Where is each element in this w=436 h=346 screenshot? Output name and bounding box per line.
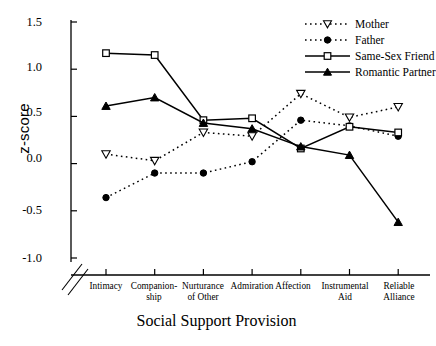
legend-entry-romantic-partner xyxy=(305,68,350,75)
data-point-0-0 xyxy=(102,151,110,158)
data-point-2-5 xyxy=(346,123,353,130)
data-point-2-0 xyxy=(103,50,110,57)
legend-marker-1 xyxy=(324,37,330,43)
data-point-0-5 xyxy=(345,114,353,121)
data-point-0-6 xyxy=(394,104,402,111)
legend-entry-same-sex-friend xyxy=(305,53,350,60)
data-point-1-3 xyxy=(249,159,255,165)
data-point-1-1 xyxy=(152,170,158,176)
legend-marker-2 xyxy=(324,53,331,60)
axis-break-slash-1 xyxy=(62,264,82,290)
data-point-1-4 xyxy=(298,117,304,123)
data-point-1-0 xyxy=(103,194,109,200)
data-point-0-4 xyxy=(297,90,305,97)
legend-markers xyxy=(305,21,350,75)
legend-entry-father xyxy=(305,37,350,43)
axis-break-slash-2 xyxy=(68,269,88,295)
data-point-1-2 xyxy=(200,170,206,176)
legend-entry-mother xyxy=(305,21,350,28)
axes xyxy=(62,20,430,295)
data-point-2-1 xyxy=(151,52,158,59)
tick-marks xyxy=(71,22,398,275)
data-point-0-2 xyxy=(199,129,207,136)
data-point-3-1 xyxy=(151,94,159,101)
plot-series xyxy=(102,50,403,226)
data-point-2-3 xyxy=(249,115,256,122)
data-point-2-6 xyxy=(395,129,402,136)
